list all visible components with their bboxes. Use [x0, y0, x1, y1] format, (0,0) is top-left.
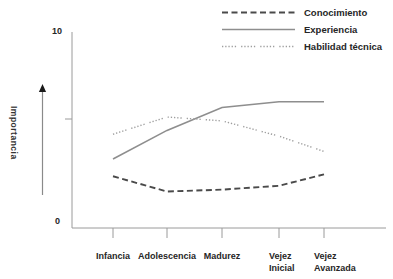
legend-item: Conocimiento	[222, 4, 382, 21]
series-line-dashed	[113, 174, 324, 191]
legend-item: Experiencia	[222, 21, 382, 38]
legend-label: Experiencia	[304, 24, 357, 35]
x-axis-label: Vejez Inicial	[269, 251, 295, 274]
chart-canvas: 10 0 Importancia ConocimientoExperiencia…	[0, 0, 393, 279]
legend: ConocimientoExperienciaHabilidad técnica	[222, 4, 382, 55]
solid-line-icon	[222, 25, 295, 34]
series-line-dotted	[113, 117, 324, 151]
legend-item: Habilidad técnica	[222, 38, 382, 55]
legend-label: Conocimiento	[304, 7, 367, 18]
x-axis-label: Vejez Avanzada	[314, 251, 356, 274]
x-axis-label: Madurez	[182, 251, 262, 263]
dotted-line-icon	[222, 42, 295, 51]
y-axis-title: Importancia	[9, 106, 19, 176]
series-line-solid	[113, 102, 324, 159]
y-axis-max-label: 10	[44, 26, 62, 36]
legend-label: Habilidad técnica	[304, 41, 382, 52]
importance-arrow-head	[39, 84, 46, 92]
dashed-line-icon	[222, 8, 295, 17]
y-axis-min-label: 0	[48, 216, 60, 226]
